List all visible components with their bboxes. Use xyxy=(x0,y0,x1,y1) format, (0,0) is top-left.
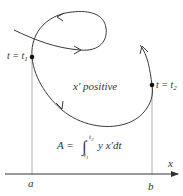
formula-lhs: A = xyxy=(56,139,74,151)
point-t1 xyxy=(30,55,35,60)
label-t2: t = t2 xyxy=(156,79,177,92)
formula-body: y x′dt xyxy=(97,139,122,151)
axis-label-x: x xyxy=(167,157,173,169)
direction-arrow-icon xyxy=(140,46,148,54)
point-t2 xyxy=(150,83,155,88)
label-a: a xyxy=(28,177,34,189)
parametric-curve xyxy=(14,12,153,127)
label-t1: t = t1 xyxy=(7,50,28,63)
parametric-area-diagram: t = t1 t = t2 x′ positive A = ∫ t2 t1 y … xyxy=(0,0,183,196)
formula-upper-limit: t2 xyxy=(89,133,94,142)
label-b: b xyxy=(148,180,154,192)
label-region: x′ positive xyxy=(72,80,117,92)
